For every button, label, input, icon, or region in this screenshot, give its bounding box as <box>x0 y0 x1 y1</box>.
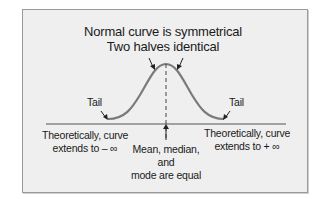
center-note-line-3: mode are equal <box>126 169 206 182</box>
left-note-line-2: extends to – ∞ <box>42 142 128 155</box>
right-tail-label: Tail <box>229 96 244 109</box>
center-note-line-1: Mean, median, <box>126 143 206 156</box>
left-note-line-1: Theoretically, curve <box>42 129 128 142</box>
center-note-line-2: and <box>126 156 206 169</box>
title-line-1: Normal curve is symmetrical <box>0 24 326 39</box>
center-arrow-icon <box>163 124 169 129</box>
left-tail-label: Tail <box>87 96 102 109</box>
right-note-line-1: Theoretically, curve <box>204 127 290 140</box>
right-note-line-2: extends to + ∞ <box>204 140 290 153</box>
title-line-2: Two halves identical <box>0 39 326 54</box>
